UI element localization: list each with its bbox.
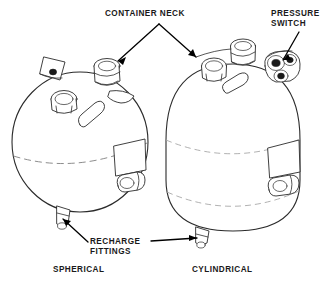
label-pressure-switch: PRESSURESWITCH	[271, 9, 320, 29]
label-pressure-switch-line1: PRESSURE	[271, 9, 320, 18]
spherical-shoulder-tab	[108, 91, 134, 103]
spherical-label-plate	[114, 139, 146, 176]
cylindrical-container-neck	[231, 39, 256, 65]
spherical-side-fitting	[117, 172, 145, 192]
label-recharge-line2: FITTINGS	[90, 247, 131, 256]
cylindrical-label-plate	[268, 140, 300, 178]
caption-spherical: SPHERICAL	[53, 265, 104, 275]
cylindrical-round-port	[202, 58, 227, 81]
spherical-mounting-bracket	[40, 57, 65, 80]
spherical-round-port	[51, 91, 77, 114]
label-pressure-switch-line2: SWITCH	[271, 19, 306, 28]
label-recharge-line1: RECHARGE	[90, 237, 140, 246]
leader-container-neck-left	[118, 24, 159, 65]
label-recharge-fittings: RECHARGEFITTINGS	[90, 237, 140, 257]
leader-recharge-spherical	[63, 219, 88, 242]
cylindrical-container	[166, 39, 300, 248]
fire-extinguisher-container-diagram: CONTAINER NECK PRESSURESWITCH RECHARGEFI…	[0, 0, 336, 291]
spherical-container-neck	[94, 59, 120, 86]
container-line-drawing	[0, 0, 336, 291]
cylindrical-pressure-switch	[265, 51, 300, 82]
spherical-recharge-fitting	[57, 206, 70, 229]
cylindrical-recharge-fitting	[196, 227, 209, 248]
leader-recharge-cylindrical	[151, 235, 197, 241]
label-container-neck: CONTAINER NECK	[105, 9, 185, 19]
cylindrical-side-fitting	[268, 175, 299, 196]
caption-cylindrical: CYLINDRICAL	[192, 265, 252, 275]
spherical-container	[12, 57, 148, 229]
leader-container-neck-right	[159, 24, 196, 57]
leader-neck-connector	[196, 49, 231, 57]
spherical-oval-port	[78, 101, 104, 127]
